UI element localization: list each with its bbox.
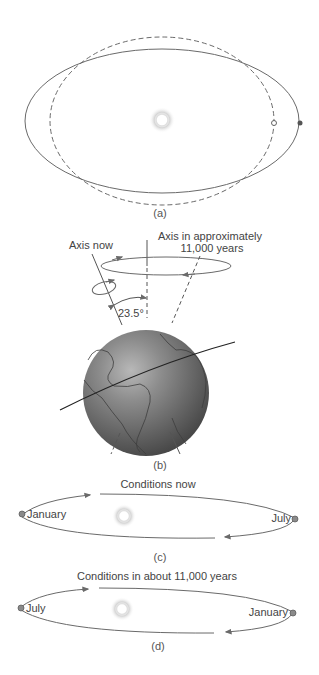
panel-b-label: (b) (153, 459, 166, 471)
panel-d-title: Conditions in about 11,000 years (77, 570, 238, 582)
panel-c-label: (c) (154, 551, 167, 563)
diagram-canvas: (a) Axis now Axis in approximately 11,00… (0, 0, 319, 675)
planet-open-marker (272, 121, 277, 126)
tilt-angle-label: 23.5° (118, 307, 144, 319)
axis-future-label-line1: Axis in approximately (158, 230, 262, 242)
earth-marker-left (18, 605, 24, 611)
earth-marker-left (19, 511, 25, 517)
point-left-label: July (26, 602, 46, 614)
panel-a: (a) (25, 37, 303, 219)
point-left-label: January (27, 508, 67, 520)
planet-filled-marker (298, 121, 303, 126)
panel-c: Conditions now January July (c) (19, 478, 298, 563)
panel-a-label: (a) (153, 207, 166, 219)
sun-icon (110, 597, 134, 621)
panel-c-title: Conditions now (120, 478, 195, 490)
panel-d-label: (d) (151, 640, 164, 652)
earth-marker-right (290, 610, 296, 616)
axis-now-label: Axis now (69, 239, 113, 251)
panel-d: Conditions in about 11,000 years July Ja… (18, 570, 296, 652)
sun-icon (149, 107, 175, 133)
axis-future-label-line2: 11,000 years (181, 242, 244, 254)
axis-future-line (172, 256, 200, 323)
panel-b: Axis now Axis in approximately 11,000 ye… (60, 230, 262, 471)
tilt-angle-arc (114, 297, 146, 305)
earth-marker-right (292, 516, 298, 522)
sun-icon (112, 504, 136, 528)
earth-globe (83, 330, 209, 456)
point-right-label: July (271, 512, 291, 524)
point-right-label: January (249, 606, 289, 618)
spin-circle (91, 279, 117, 297)
precession-circle (101, 257, 231, 275)
